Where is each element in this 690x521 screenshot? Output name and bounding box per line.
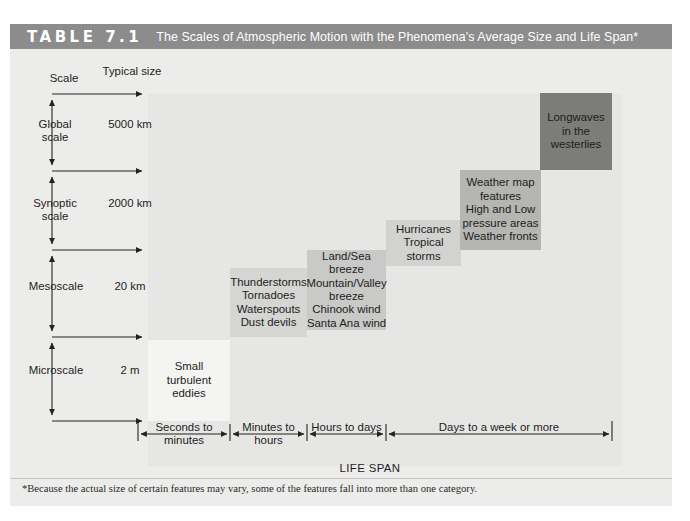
scale-row-mesoscale: Mesoscale <box>20 280 92 293</box>
phenomenon-box-longwaves: Longwaves in the westerlies <box>540 93 612 170</box>
typical-size-header-label: Typical size <box>102 65 162 78</box>
scale-row-global: Global scale <box>24 118 86 144</box>
table-title-bar: TABLE 7.1 The Scales of Atmospheric Moti… <box>10 24 672 49</box>
lifespan-band-seconds-to-minutes: Seconds to minutes <box>141 421 227 447</box>
typical-size-global: 5000 km <box>98 118 162 131</box>
scale-row-microscale: Microscale <box>18 364 94 377</box>
lifespan-band-minutes-to-hours: Minutes to hours <box>233 421 304 447</box>
phenomenon-box-weather-map-features: Weather map features High and Low pressu… <box>460 170 541 250</box>
phenomenon-box-thunderstorms: Thunderstorms Tornadoes Waterspouts Dust… <box>230 268 307 337</box>
lifespan-band-hours-to-days: Hours to days <box>310 421 383 434</box>
chart-area: Scale Typical size Global scale Synoptic… <box>10 49 672 506</box>
scale-row-synoptic: Synoptic scale <box>24 197 86 223</box>
phenomenon-box-hurricanes: Hurricanes Tropical storms <box>386 220 461 266</box>
table-figure: TABLE 7.1 The Scales of Atmospheric Moti… <box>0 0 690 521</box>
typical-size-synoptic: 2000 km <box>98 197 162 210</box>
footnote-divider <box>10 478 672 479</box>
table-number-label: TABLE 7.1 <box>27 28 142 46</box>
table-title-label: The Scales of Atmospheric Motion with th… <box>156 30 638 44</box>
lifespan-band-days-to-a-week-or-more: Days to a week or more <box>389 421 609 434</box>
phenomenon-box-local-winds: Land/Sea breeze Mountain/Valley breeze C… <box>307 250 386 330</box>
footnote-text: *Because the actual size of certain feat… <box>22 483 477 494</box>
typical-size-mesoscale: 20 km <box>98 280 162 293</box>
scale-header-label: Scale <box>34 72 94 85</box>
phenomenon-box-small-turbulent-eddies: Small turbulent eddies <box>148 340 230 421</box>
lifespan-axis-title: LIFE SPAN <box>310 462 430 475</box>
